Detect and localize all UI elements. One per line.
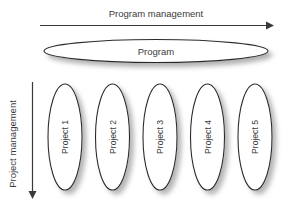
project-node-3[interactable]: Project 3 xyxy=(143,84,177,190)
arrow-down-icon xyxy=(29,191,37,199)
project-node-4[interactable]: Project 4 xyxy=(191,84,225,190)
project-label-5: Project 5 xyxy=(250,120,260,154)
program-project-management-diagram: Program management Project management Pr… xyxy=(0,0,283,209)
project-node-5[interactable]: Project 5 xyxy=(238,84,272,190)
project-node-2[interactable]: Project 2 xyxy=(96,84,130,190)
project-label-1: Project 1 xyxy=(60,120,70,154)
project-label-3: Project 3 xyxy=(155,120,165,154)
project-node-1[interactable]: Project 1 xyxy=(48,84,82,190)
program-management-axis: Program management xyxy=(40,8,274,30)
project-label-4: Project 4 xyxy=(203,120,213,154)
project-label-2: Project 2 xyxy=(108,120,118,154)
program-management-axis-label: Program management xyxy=(109,8,204,19)
arrow-right-icon xyxy=(266,22,274,30)
project-management-axis: Project management xyxy=(7,82,37,199)
diagram-canvas: Program management Project management Pr… xyxy=(0,0,283,209)
project-management-axis-label: Project management xyxy=(7,100,18,188)
program-label: Program xyxy=(138,46,175,57)
program-node[interactable]: Program xyxy=(44,40,268,63)
